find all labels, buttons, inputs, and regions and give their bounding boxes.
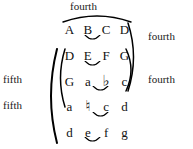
note-cell: d — [117, 99, 132, 114]
note-cell: A — [62, 22, 77, 37]
tetrachord-diagram: fourth A B C D D E F G G a ♭ c — [0, 0, 193, 149]
note-cell: d — [62, 125, 77, 140]
label-right-fourth-lower: fourth — [148, 74, 175, 85]
semitone-arc-row5 — [84, 137, 101, 144]
left-paren-inner — [55, 48, 67, 108]
label-top-fourth: fourth — [70, 1, 97, 12]
semitone-arc-row1 — [84, 35, 101, 42]
label-left-fifth-lower: fifth — [3, 100, 22, 111]
label-right-fourth-upper: fourth — [148, 31, 175, 42]
semitone-arc-row2 — [84, 61, 101, 68]
note-cell: g — [117, 125, 132, 140]
semitone-arc-row3 — [92, 86, 109, 93]
right-paren-inner — [124, 48, 138, 92]
label-left-fifth-upper: fifth — [3, 74, 22, 85]
semitone-arc-row4 — [92, 112, 109, 119]
